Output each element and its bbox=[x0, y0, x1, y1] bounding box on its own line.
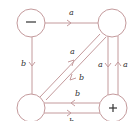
node-top-right bbox=[98, 9, 126, 37]
edge-label: b bbox=[21, 59, 26, 68]
arrow-down-left-icon bbox=[70, 74, 76, 80]
edge-label: b bbox=[69, 117, 74, 121]
edge-bottom-right-to-top-right: a bbox=[115, 36, 128, 95]
edge-label: a bbox=[98, 60, 103, 69]
edge-label: a bbox=[69, 8, 74, 17]
node-bottom-right bbox=[99, 94, 127, 121]
edge-top-left-to-top-right: a bbox=[44, 8, 98, 26]
edge-label: b bbox=[79, 73, 84, 82]
edge-bottom-left-to-top-right: a bbox=[40, 34, 100, 97]
edge-top-right-to-bottom-right: a bbox=[98, 36, 111, 95]
edge-top-left-to-bottom-left: b bbox=[21, 37, 35, 95]
node-top-left bbox=[17, 9, 45, 37]
edge-label: b bbox=[75, 89, 80, 98]
edge-label: a bbox=[70, 47, 75, 56]
edge-label: a bbox=[123, 60, 128, 69]
edge-bottom-right-to-bottom-left: b bbox=[44, 89, 100, 106]
state-diagram: a b a b a a b b bbox=[0, 0, 132, 121]
node-bottom-left bbox=[17, 94, 45, 121]
edge-bottom-left-to-bottom-right: b bbox=[44, 110, 100, 121]
